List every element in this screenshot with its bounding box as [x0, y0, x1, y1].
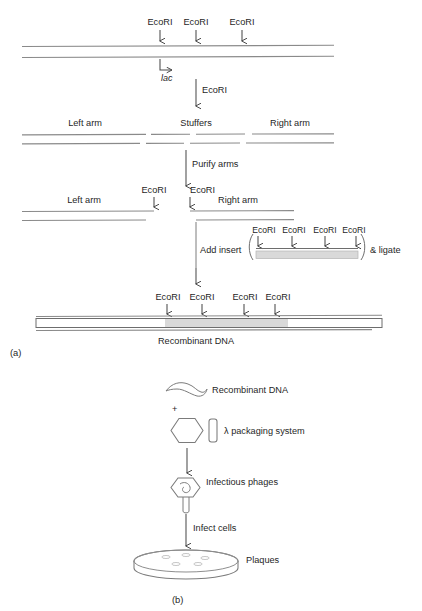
- recombinant-dna-bar: [36, 315, 382, 330]
- phage-tail-icon: [209, 419, 217, 442]
- add-insert-label: Add insert: [200, 245, 242, 255]
- recombinant-dna-squiggle-icon: [166, 383, 207, 397]
- insert-site-label-1: EcoRI: [252, 225, 275, 235]
- insert-site-label-2: EcoRI: [282, 225, 305, 235]
- recombinant-site-label-2: EcoRI: [189, 292, 214, 302]
- infectious-phages-label: Infectious phages: [206, 477, 278, 487]
- right-arm-site-label: EcoRI: [190, 185, 215, 195]
- purify-step-label: Purify arms: [192, 159, 239, 169]
- insert-site-label-3: EcoRI: [313, 225, 336, 235]
- infect-cells-label: Infect cells: [193, 523, 237, 533]
- vector-site-label-1: EcoRI: [147, 17, 172, 27]
- vector-site-label-2: EcoRI: [183, 17, 208, 27]
- lac-promoter-label: lac: [161, 73, 173, 83]
- right-arm-duplex: [190, 211, 294, 220]
- vector-dna-duplex: [22, 45, 334, 57]
- left-arm-duplex: [22, 211, 154, 221]
- insert-bracket-right: [361, 234, 365, 260]
- recombinant-site-label-1: EcoRI: [155, 292, 180, 302]
- recombinant-site-label-4: EcoRI: [265, 292, 290, 302]
- recombinant-dna-label: Recombinant DNA: [158, 336, 235, 346]
- fragment-label-right-arm: Right arm: [270, 118, 310, 128]
- panel-a-label: (a): [10, 347, 21, 358]
- lambda-cloning-figure: EcoRI EcoRI EcoRI lac EcoRI: [0, 0, 422, 611]
- petri-dish-icon: [134, 550, 238, 579]
- insert-shaded-bar: [256, 251, 358, 259]
- packaging-system-label: λ packaging system: [224, 426, 305, 436]
- insert-fragment: [256, 249, 358, 259]
- left-arm-site-label: EcoRI: [141, 185, 166, 195]
- digested-fragments: [22, 134, 334, 144]
- plus-symbol: +: [172, 404, 177, 414]
- right-arm-label: Right arm: [218, 195, 258, 205]
- digest-step-label: EcoRI: [202, 85, 227, 95]
- recombinant-site-label-3: EcoRI: [232, 292, 257, 302]
- insert-site-label-4: EcoRI: [342, 225, 365, 235]
- insert-bracket-left: [249, 234, 253, 260]
- lac-promoter-arrow: [160, 59, 172, 70]
- phage-head-icon: [171, 419, 203, 443]
- infectious-phage-icon: [171, 478, 200, 513]
- vector-site-label-3-text: EcoRI: [229, 17, 254, 27]
- vector-site-label-2-text: EcoRI: [183, 17, 208, 27]
- figure-canvas: EcoRI EcoRI EcoRI lac EcoRI: [0, 0, 422, 611]
- recombinant-insert-region: [165, 319, 288, 327]
- left-arm-label: Left arm: [67, 195, 101, 205]
- vector-site-label-1-text: EcoRI: [147, 17, 172, 27]
- panel-b-label: (b): [172, 594, 183, 605]
- fragment-label-stuffers: Stuffers: [180, 118, 212, 128]
- panel-b-dna-label: Recombinant DNA: [212, 385, 289, 395]
- fragment-label-left-arm: Left arm: [68, 118, 102, 128]
- vector-site-label-3: EcoRI: [229, 17, 254, 27]
- ligate-label: & ligate: [370, 245, 401, 255]
- plaques-label: Plaques: [246, 555, 280, 565]
